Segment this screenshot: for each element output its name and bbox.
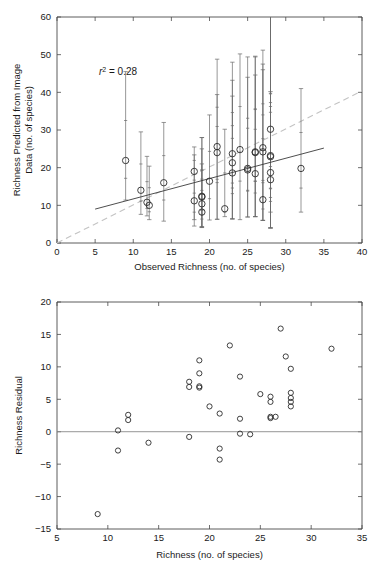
top-x-tick-label: 30 <box>280 246 291 257</box>
bottom-y-tick-label: −10 <box>35 491 51 502</box>
top-x-tick-label: 10 <box>128 246 139 257</box>
top-x-axis-title: Observed Richness (no. of species) <box>134 261 284 272</box>
top-y-tick-label: 10 <box>40 200 51 211</box>
residual-point-marker <box>237 416 242 421</box>
top-y-tick-label: 50 <box>40 49 51 60</box>
residual-point-marker <box>329 346 334 351</box>
residual-point-marker <box>197 371 202 376</box>
top-x-tick-label: 35 <box>319 246 330 257</box>
residual-point-marker <box>283 354 288 359</box>
bottom-y-tick-label: 0 <box>46 426 51 437</box>
residual-point-marker <box>288 366 293 371</box>
bottom-x-tick-label: 25 <box>255 532 266 543</box>
top-y-axis-title-line2: Data (no. of species) <box>23 86 34 174</box>
bottom-x-tick-label: 15 <box>153 532 164 543</box>
residual-point-marker <box>217 411 222 416</box>
bottom-y-tick-label: 10 <box>40 361 51 372</box>
bottom-y-tick-label: 20 <box>40 296 51 307</box>
bottom-y-tick-label: −15 <box>35 523 51 534</box>
residual-point-marker <box>95 511 100 516</box>
residual-point-marker <box>258 391 263 396</box>
bottom-y-tick-label: −5 <box>40 459 51 470</box>
bottom-plot-frame <box>57 302 362 529</box>
residual-point-marker <box>115 448 120 453</box>
bottom-markers <box>95 326 334 517</box>
residual-point-marker <box>207 404 212 409</box>
panel-residuals: 5101520253035−15−10−505101520Richness (n… <box>0 291 377 582</box>
bottom-y-tick-label: 15 <box>40 329 51 340</box>
bottom-y-axis-title: Richness Residual <box>13 376 24 455</box>
residual-point-marker <box>268 394 273 399</box>
bottom-x-axis-title: Richness (no. of species) <box>156 549 263 560</box>
bottom-x-tick-label: 5 <box>54 532 59 543</box>
top-x-tick-label: 20 <box>204 246 215 257</box>
residual-point-marker <box>115 428 120 433</box>
bottom-x-tick-label: 30 <box>306 532 317 543</box>
residual-point-marker <box>227 343 232 348</box>
top-y-axis-title-line1: Richness Predicted from Image <box>11 64 22 197</box>
residual-point-marker <box>126 417 131 422</box>
bottom-y-tick-label: 5 <box>46 394 51 405</box>
residual-point-marker <box>197 358 202 363</box>
residual-point-marker <box>187 379 192 384</box>
top-y-tick-label: 40 <box>40 87 51 98</box>
residual-point-marker <box>146 440 151 445</box>
bottom-x-tick-label: 35 <box>357 532 368 543</box>
top-y-tick-label: 60 <box>40 11 51 22</box>
top-y-tick-label: 20 <box>40 162 51 173</box>
top-x-tick-label: 0 <box>54 246 59 257</box>
residual-point-marker <box>268 399 273 404</box>
residual-point-marker <box>187 384 192 389</box>
bottom-x-tick-label: 10 <box>103 532 114 543</box>
top-y-tick-label: 30 <box>40 124 51 135</box>
top-y-axis-title: Richness Predicted from ImageData (no. o… <box>11 64 34 197</box>
top-x-tick-label: 5 <box>92 246 97 257</box>
bottom-x-tick-label: 20 <box>204 532 215 543</box>
top-x-tick-label: 15 <box>166 246 177 257</box>
top-x-tick-label: 40 <box>357 246 368 257</box>
residual-point-marker <box>237 374 242 379</box>
residual-point-marker <box>278 326 283 331</box>
residual-point-marker <box>248 432 253 437</box>
panel-predicted-vs-observed: 05101520253035400102030405060r2 = 0.28Ob… <box>0 0 377 291</box>
r-squared-annotation: r2 = 0.28 <box>99 66 138 78</box>
residual-point-marker <box>217 446 222 451</box>
figure-container: 05101520253035400102030405060r2 = 0.28Ob… <box>0 0 377 582</box>
top-x-tick-label: 25 <box>242 246 253 257</box>
residual-point-marker <box>217 457 222 462</box>
residual-point-marker <box>126 412 131 417</box>
residual-point-marker <box>288 390 293 395</box>
top-markers <box>122 126 304 215</box>
top-y-tick-label: 0 <box>46 237 51 248</box>
residual-point-marker <box>273 414 278 419</box>
residual-point-marker <box>187 434 192 439</box>
